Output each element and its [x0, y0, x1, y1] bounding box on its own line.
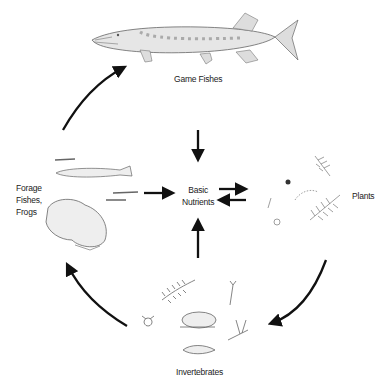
- minnows-and-frog-icon: [46, 159, 138, 250]
- label-plants: Plants: [352, 190, 374, 202]
- arrow-invertebrates-to-forage: [68, 266, 127, 326]
- label-basic-nutrients: Basic Nutrients: [182, 184, 214, 208]
- label-line: Basic: [182, 184, 214, 196]
- arrow-plants-to-invertebrates: [272, 260, 326, 323]
- invertebrates-icon: [142, 280, 248, 354]
- label-invertebrates: Invertebrates: [176, 366, 223, 378]
- arrow-forage-to-gamefish: [63, 68, 123, 130]
- label-game-fishes: Game Fishes: [174, 73, 222, 85]
- label-line: Nutrients: [182, 196, 214, 208]
- label-line: Frogs: [16, 206, 42, 218]
- aquatic-plants-icon: [268, 156, 340, 225]
- label-forage-fishes-frogs: Forage Fishes, Frogs: [16, 182, 42, 218]
- label-line: Fishes,: [16, 194, 42, 206]
- pike-fish-icon: [92, 13, 298, 64]
- label-line: Forage: [16, 182, 42, 194]
